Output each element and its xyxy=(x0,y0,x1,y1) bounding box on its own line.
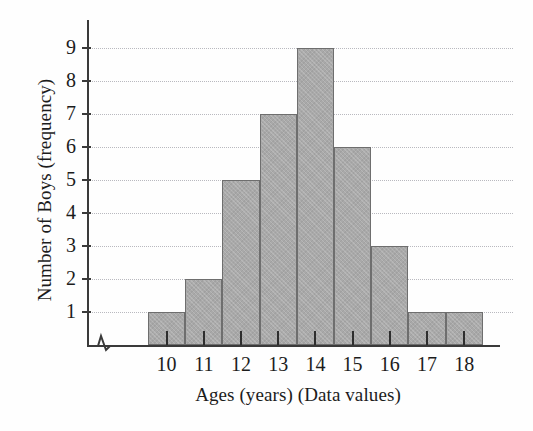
x-axis-tick xyxy=(352,331,354,345)
x-axis-tick xyxy=(314,331,316,345)
bar xyxy=(334,147,371,345)
x-axis-title: Ages (years) (Data values) xyxy=(88,384,508,406)
x-axis-tick-label: 16 xyxy=(370,352,410,376)
x-axis-tick-label: 10 xyxy=(147,352,187,376)
x-axis-tick xyxy=(240,331,242,345)
x-axis-tick-label: 12 xyxy=(221,352,261,376)
x-axis-tick-label: 11 xyxy=(184,352,224,376)
x-axis-tick-label: 13 xyxy=(258,352,298,376)
x-axis-tick xyxy=(166,331,168,345)
x-axis-tick xyxy=(463,331,465,345)
bar xyxy=(222,180,259,345)
x-axis-tick xyxy=(277,331,279,345)
x-axis-tick xyxy=(389,331,391,345)
x-axis-tick-label: 14 xyxy=(295,352,335,376)
bar xyxy=(297,48,334,345)
x-axis-tick-label: 18 xyxy=(444,352,484,376)
x-axis-tick-label: 17 xyxy=(407,352,447,376)
bar xyxy=(260,114,297,345)
x-axis-tick xyxy=(426,331,428,345)
histogram-chart: Number of Boys (frequency) 123456789 101… xyxy=(0,0,533,431)
x-axis-tick-label: 15 xyxy=(333,352,373,376)
axis-break-icon xyxy=(92,330,122,352)
x-axis-tick xyxy=(203,331,205,345)
